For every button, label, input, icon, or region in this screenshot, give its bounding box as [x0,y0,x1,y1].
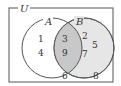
universe-label: U [20,3,29,14]
b-only-value: 2 [82,31,88,41]
set-a-label: A [44,16,52,27]
outside-value: 8 [93,71,99,81]
venn-diagram: U A B 1 4 3 9 2 5 7 6 8 [0,0,121,86]
intersection-value: 9 [62,48,68,58]
outside-value: 6 [62,71,68,81]
b-only-value: 5 [92,40,98,50]
a-only-value: 4 [38,48,44,58]
a-only-value: 1 [38,34,44,44]
b-only-value: 7 [82,49,88,59]
set-b-label: B [75,16,83,27]
intersection-value: 3 [62,34,68,44]
